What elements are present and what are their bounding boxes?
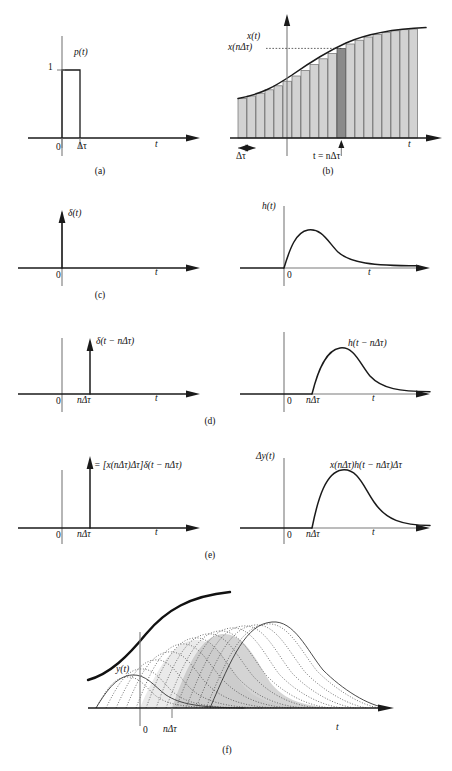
panel-d-left-axis-arrowhead [186, 391, 200, 398]
panel-a-zero-label: 0 [56, 143, 61, 153]
panel-b-axis-arrowhead [426, 135, 442, 142]
panel-f-superposition [80, 590, 410, 740]
panel-c-right-zero-label: 0 [287, 271, 292, 281]
panel-a-height-label: 1 [48, 63, 53, 73]
panel-b-strip-width-label: Δτ [236, 152, 246, 162]
panel-b-sample-label: x(nΔτ) [228, 43, 252, 53]
panel-c-left-impulse [10, 196, 210, 292]
panel-a-pulse-outline [62, 70, 80, 138]
panel-b-width-arrow-right [246, 145, 256, 152]
panel-b-t-label: t [408, 140, 411, 150]
panel-e-left-axis-arrowhead [186, 525, 200, 532]
panel-letter-f: (f) [212, 745, 242, 755]
panel-f-axis-arrowhead [378, 705, 394, 712]
panel-e-left-zero-label: 0 [56, 531, 61, 541]
panel-b-vertical-axis-arrowhead [284, 14, 290, 26]
convolution-figure: p(t) 1 0 Δτ t (a) [0, 0, 452, 771]
panel-f-signal-label: y(t) [116, 665, 129, 675]
panel-e-scaled-response-curve [312, 470, 430, 528]
panel-d-right-shifted-response [232, 322, 442, 418]
panel-e-left-signal-label: = [x(nΔτ)Δτ]δ(t − nΔτ) [94, 461, 182, 471]
panel-d-shifted-response-curve [312, 348, 430, 394]
panel-e-right-axis-label: Δy(t) [256, 452, 275, 462]
panel-letter-e: (e) [195, 550, 225, 560]
panel-c-left-signal-label: δ(t) [68, 209, 81, 219]
panel-letter-a: (a) [85, 166, 115, 176]
panel-c-impulse-response-curve [284, 230, 418, 268]
panel-b-marker-label: t = nΔτ [313, 152, 340, 162]
panel-letter-c: (c) [85, 290, 115, 300]
panel-f-zero-label: 0 [143, 726, 148, 736]
panel-c-left-t-label: t [155, 268, 158, 278]
panel-e-left-location-label: nΔτ [77, 530, 91, 540]
panel-b-strip-group [238, 29, 418, 138]
panel-d-right-location-label: nΔτ [306, 396, 320, 406]
panel-b-signal-label: x(t) [247, 32, 260, 42]
panel-a-rect-pulse [10, 8, 210, 168]
panel-b-marker-arrowhead [338, 140, 344, 148]
panel-e-right-t-label: t [372, 528, 375, 538]
panel-e-left-t-label: t [155, 528, 158, 538]
panel-a-t-label: t [155, 140, 158, 150]
panel-d-left-zero-label: 0 [56, 397, 61, 407]
panel-c-left-axis-arrowhead [186, 265, 200, 272]
panel-d-left-location-label: nΔτ [77, 396, 91, 406]
panel-f-location-label: nΔτ [163, 725, 177, 735]
panel-b-highlight-strip [337, 48, 346, 138]
panel-d-right-zero-label: 0 [287, 397, 292, 407]
panel-c-left-zero-label: 0 [56, 271, 61, 281]
panel-d-impulse-arrowhead [87, 338, 94, 351]
panel-a-signal-label: p(t) [74, 48, 88, 58]
panel-e-impulse-arrowhead [87, 456, 94, 469]
panel-c-right-t-label: t [368, 268, 371, 278]
panel-d-right-signal-label: h(t − nΔτ) [348, 339, 387, 349]
panel-letter-d: (d) [195, 416, 225, 426]
panel-d-right-t-label: t [372, 394, 375, 404]
panel-f-t-label: t [336, 723, 339, 733]
panel-a-delta-tau-label: Δτ [77, 142, 87, 152]
panel-e-right-zero-label: 0 [287, 531, 292, 541]
panel-letter-b: (b) [313, 166, 343, 176]
panel-d-left-t-label: t [155, 394, 158, 404]
panel-a-axis-arrowhead [186, 135, 200, 142]
panel-c-impulse-arrowhead [59, 210, 66, 223]
panel-c-right-signal-label: h(t) [262, 202, 276, 212]
panel-e-right-signal-label: x(nΔτ)h(t − nΔτ)Δτ [330, 461, 402, 471]
panel-e-right-location-label: nΔτ [306, 530, 320, 540]
panel-d-left-signal-label: δ(t − nΔτ) [96, 337, 134, 347]
